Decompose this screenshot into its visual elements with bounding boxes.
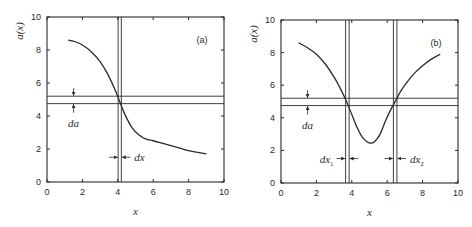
panel-label: (b) <box>431 38 442 48</box>
y-tick-label: 4 <box>270 113 275 123</box>
y-tick-label: 0 <box>36 177 41 187</box>
x-axis-label: x <box>366 206 372 218</box>
y-tick-label: 10 <box>265 15 275 25</box>
y-tick-label: 8 <box>36 45 41 55</box>
x-tick-label: 2 <box>80 187 85 197</box>
x-tick-label: 10 <box>219 187 229 197</box>
data-curve <box>68 40 206 154</box>
x-tick-label: 10 <box>453 188 463 198</box>
x-tick-label: 0 <box>278 188 283 198</box>
y-axis-label: a(x) <box>247 25 260 43</box>
dx-label: dx1 <box>320 153 334 168</box>
panel-label: (a) <box>197 35 208 45</box>
plot-panel-a: 02468100246810xa(x)(a)dadx <box>13 12 229 217</box>
da-label: da <box>68 117 80 129</box>
data-curve <box>299 43 441 143</box>
y-tick-label: 0 <box>270 178 275 188</box>
x-tick-label: 2 <box>314 188 319 198</box>
x-tick-label: 4 <box>115 187 120 197</box>
x-tick-label: 0 <box>44 187 49 197</box>
plot-panel-b: 02468100246810xa(x)(b)dadx1dx2 <box>247 15 463 218</box>
x-tick-label: 4 <box>349 188 354 198</box>
x-tick-label: 6 <box>385 188 390 198</box>
y-tick-label: 4 <box>36 111 41 121</box>
y-tick-label: 2 <box>36 144 41 154</box>
y-tick-label: 8 <box>270 48 275 58</box>
x-tick-label: 6 <box>151 187 156 197</box>
figure: 02468100246810xa(x)(a)dadx 0246810024681… <box>0 0 472 227</box>
x-axis-label: x <box>132 205 138 217</box>
x-tick-label: 8 <box>186 187 191 197</box>
y-tick-label: 6 <box>270 80 275 90</box>
y-tick-label: 10 <box>31 12 41 22</box>
y-tick-label: 2 <box>270 145 275 155</box>
dx-label: dx <box>134 151 145 163</box>
dx-label: dx2 <box>410 153 424 168</box>
da-label: da <box>302 119 314 131</box>
y-tick-label: 6 <box>36 78 41 88</box>
y-axis-label: a(x) <box>13 22 26 40</box>
x-tick-label: 8 <box>420 188 425 198</box>
